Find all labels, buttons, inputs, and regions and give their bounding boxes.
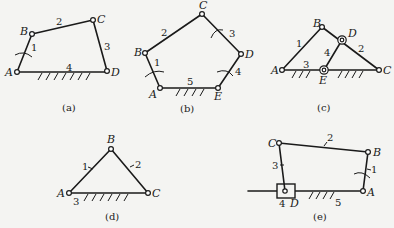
joint-c — [377, 68, 382, 73]
ground-hatch — [176, 89, 204, 96]
label-d: D — [244, 48, 254, 61]
link-label-4: 4 — [324, 47, 330, 58]
link-label-2: 2 — [327, 132, 333, 143]
link-label-3: 3 — [73, 196, 79, 207]
caption-d: (d) — [105, 211, 119, 222]
joint-d — [239, 52, 244, 57]
link-label-2: 2 — [56, 16, 62, 27]
joint-d — [340, 38, 344, 42]
label-b: B — [312, 17, 321, 30]
link-label-2: 2 — [358, 43, 364, 54]
label-d: D — [347, 27, 357, 40]
link-label-1: 1 — [154, 57, 160, 68]
link-1 — [69, 149, 111, 193]
figure-b: A B C D E 1 2 3 4 5 (b) — [133, 0, 254, 114]
driver-arrow-icon — [354, 173, 370, 178]
link-label-3: 3 — [303, 59, 309, 70]
label-c: C — [383, 64, 392, 77]
ground-hatch — [38, 73, 90, 80]
joint-a — [15, 70, 20, 75]
label-a: A — [4, 66, 13, 79]
joint-a — [158, 86, 163, 91]
driver-arrow-icon — [217, 71, 233, 76]
label-b: B — [133, 46, 142, 59]
joint-b — [366, 150, 371, 155]
joint-c — [146, 191, 151, 196]
joint-a — [67, 191, 72, 196]
link-label-1: 1 — [371, 164, 377, 175]
label-e: E — [213, 90, 222, 103]
link-label-5: 5 — [187, 76, 193, 87]
link-label-2: 2 — [161, 27, 167, 38]
figure-c: A B C D E 1 2 3 4 (c) — [270, 17, 392, 113]
link-label-4: 4 — [235, 66, 241, 77]
link-2 — [32, 20, 93, 34]
link-label-4: 4 — [66, 62, 72, 73]
link-2 — [279, 143, 368, 152]
link-label-1: 1 — [31, 42, 37, 53]
joint-c — [277, 141, 282, 146]
label-a: A — [56, 187, 65, 200]
label-d: D — [289, 197, 299, 210]
caption-a: (a) — [62, 102, 76, 113]
caption-c: (c) — [317, 102, 331, 113]
label-b: B — [372, 146, 381, 159]
link-2 — [145, 14, 202, 53]
mechanism-diagrams: A B C D 1 2 3 4 (a) A B C D E 1 — [0, 0, 394, 228]
joint-d — [105, 69, 110, 74]
caption-b: (b) — [180, 103, 194, 114]
figure-a: A B C D 1 2 3 4 (a) — [4, 13, 120, 113]
joint-c — [200, 12, 205, 17]
label-c: C — [97, 13, 106, 26]
label-c: C — [152, 187, 161, 200]
link-label-4: 4 — [279, 198, 285, 209]
figure-e: C B A D 2 3 1 4 5 (e) — [248, 132, 381, 222]
label-d: D — [110, 66, 120, 79]
label-e: E — [318, 74, 327, 87]
joint-b — [109, 147, 114, 152]
label-a: A — [270, 64, 279, 77]
link-2 — [111, 149, 148, 193]
link-label-3: 3 — [104, 41, 110, 52]
caption-e: (e) — [313, 211, 327, 222]
label-a: A — [148, 88, 157, 101]
joint-a — [361, 189, 366, 194]
link-label-3: 3 — [229, 28, 235, 39]
joint-d — [283, 189, 287, 193]
link-label-3: 3 — [272, 160, 278, 171]
joint-c — [91, 18, 96, 23]
ground-hatch — [309, 192, 334, 199]
joint-e — [322, 68, 326, 72]
figure-d: A B C 1 2 3 (d) — [56, 133, 161, 222]
joint-b — [30, 32, 35, 37]
joint-a — [280, 68, 285, 73]
label-c: C — [199, 0, 208, 12]
label-b: B — [106, 133, 115, 146]
link-label-2: 2 — [135, 159, 141, 170]
ground-hatch — [84, 194, 128, 201]
link-label-1: 1 — [82, 161, 88, 172]
label-b: B — [19, 25, 28, 38]
label-a: A — [366, 186, 375, 199]
label-c: C — [268, 137, 277, 150]
joint-b — [143, 51, 148, 56]
link-label-5: 5 — [335, 197, 341, 208]
leader-2 — [130, 165, 134, 167]
link-label-1: 1 — [296, 38, 302, 49]
